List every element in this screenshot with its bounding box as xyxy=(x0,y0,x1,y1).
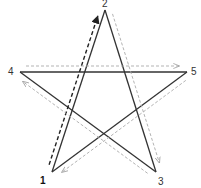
vertex-label-5: 5 xyxy=(191,66,197,77)
pentagram-diagram: 12345 xyxy=(0,0,201,188)
star-edge-2-3 xyxy=(105,10,156,172)
stroke-arrow-5-to-1 xyxy=(62,80,186,172)
vertex-label-2: 2 xyxy=(102,0,108,9)
vertex-label-3: 3 xyxy=(158,176,164,187)
stroke-arrow-1-to-2 xyxy=(49,16,98,165)
stroke-order-arrows xyxy=(23,14,186,173)
stroke-arrow-2-to-3 xyxy=(113,14,160,163)
vertex-label-4: 4 xyxy=(8,66,14,77)
stroke-arrow-3-to-4 xyxy=(23,82,148,174)
star-outline xyxy=(20,10,187,172)
vertex-label-1: 1 xyxy=(40,175,46,186)
star-edge-5-1 xyxy=(52,72,187,172)
star-edge-1-2 xyxy=(52,10,105,172)
